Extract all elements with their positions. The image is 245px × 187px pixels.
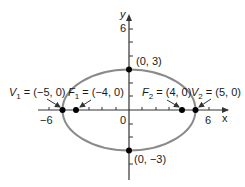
v1-pointer-arrow-icon	[47, 99, 60, 107]
x-axis-label: x	[222, 112, 228, 124]
origin-label: 0	[120, 114, 126, 126]
focus-f1-point	[73, 107, 79, 113]
v2-label: V2 = (5, 0)	[191, 86, 241, 101]
v1-label: V1 = (−5, 0)	[9, 86, 65, 101]
y-axis	[126, 14, 133, 180]
f2-label: F2 = (4, 0)	[142, 86, 191, 101]
focus-f2-point	[179, 107, 185, 113]
x-axis	[38, 107, 229, 113]
ellipse-diagram: y x 6 −6 0 6 (0, 3) (0, −3) V1 = (−5, 0)…	[0, 0, 245, 187]
y-axis-arrow-icon	[126, 14, 132, 21]
vertex-v1-point	[60, 107, 66, 113]
f1-label: F1 = (−4, 0)	[68, 86, 124, 101]
f1-pointer-arrow-icon	[80, 100, 91, 107]
y-tick-6: 6	[120, 22, 126, 34]
bottom-vertex-point	[126, 148, 132, 154]
y-axis-label: y	[119, 8, 127, 20]
top-vertex-label: (0, 3)	[136, 55, 162, 67]
f2-pointer-arrow-icon	[167, 100, 179, 107]
bottom-vertex-label: (0, −3)	[134, 153, 166, 165]
x-tick-neg6: −6	[40, 114, 53, 126]
top-vertex-point	[126, 67, 132, 73]
vertex-v2-point	[193, 107, 199, 113]
x-tick-6: 6	[205, 114, 211, 126]
